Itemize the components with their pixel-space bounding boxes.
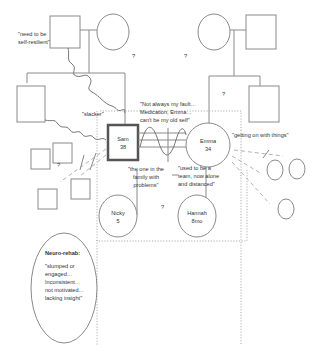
emma-mother-circle [198,14,230,50]
quote-used-to-be-2: team, now alone [178,173,219,179]
neuro-rehab-line: "slumped or [45,263,75,269]
unknown-marker: ? [184,53,187,59]
conflict-wave-sam-emma [140,127,186,155]
unknown-marker: ? [222,91,225,97]
nicky-name: Nicky [111,210,125,216]
sam-mother-circle [97,14,129,50]
distant-line [232,162,270,204]
emma-name: Emma [200,138,217,144]
peer-square [38,189,57,209]
neuro-rehab-title: Neuro-rehab: [45,250,80,256]
quote-not-my-fault-1: "Not always my fault… [140,101,196,107]
peer-circle [267,160,283,180]
hannah-name: Hannah [187,210,207,216]
peer-circle [278,199,294,219]
quote-getting-on: "getting on with things" [232,132,289,138]
neuro-rehab-line: engaged… [45,271,72,277]
genogram-diagram: "need to be self-resilient" ? ? ? Sam 38… [0,0,318,345]
quote-one-in-family-2: family with [133,174,159,180]
peer-square [31,149,50,169]
cutoff-marker [90,153,96,170]
hannah-age: 8mo [192,218,203,224]
sam-square [108,125,138,160]
conflict-line-father-sam [68,48,125,113]
emma-circle [186,123,230,167]
peer-circle [289,159,305,179]
sam-father-square [50,16,80,48]
neuro-rehab-line: Inconsistent… [45,279,80,285]
unknown-marker: ? [132,53,135,59]
emma-age: 34 [205,146,211,152]
sam-age: 38 [120,144,126,150]
peer-square [71,179,90,199]
nicky-circle [99,195,137,237]
hannah-circle [178,195,216,237]
quote-used-to-be-3: and distanced" [178,181,215,187]
emma-father-square [246,15,276,49]
cutoff-marker [80,155,84,170]
emma-sibling-square [249,86,279,122]
quote-self-resilient-1: "need to be [18,31,46,37]
unknown-marker: ? [57,162,60,168]
sam-name: Sam [117,136,129,142]
distant-line [232,156,262,174]
unknown-marker: ? [161,204,164,210]
quote-one-in-family-1: "the one in the [128,166,164,172]
peer-square [53,143,72,163]
quote-slacker: "slacker" [82,111,104,117]
neuro-rehab-line: lacking insight" [45,295,82,301]
quote-not-my-fault-2: Medication, Emma… [140,109,192,115]
sam-sibling-square [17,86,45,122]
quote-one-in-family-3: problems" [134,182,159,188]
neuro-rehab-line: not motivated… [45,287,84,293]
nicky-age: 5 [116,218,119,224]
quote-used-to-be-1: "used to be a [178,165,212,171]
quote-not-my-fault-3: can't be my old self" [140,117,190,123]
quote-self-resilient-2: self-resilient" [18,39,50,45]
